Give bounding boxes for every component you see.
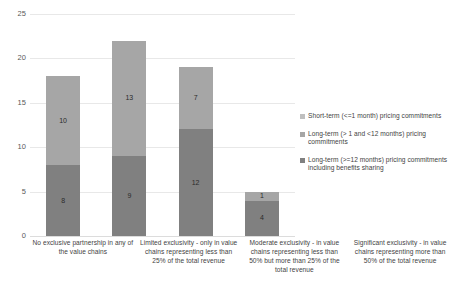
bar-segment-long-term-under-12-months[interactable]: 10 <box>46 76 80 165</box>
bar-segment-value-label: 13 <box>125 94 133 102</box>
bar-column-no-exclusive-partnership[interactable]: 10 8 <box>30 14 96 236</box>
legend-item-long-term-under-12-months[interactable]: Long-term (> 1 and <12 months) pricing c… <box>300 130 458 147</box>
bar-segment-long-term-under-12-months[interactable]: 7 <box>179 67 213 129</box>
stacked-bar-chart: 25 20 15 10 5 0 10 <box>0 0 458 308</box>
bar-column-significant-exclusivity[interactable]: 1 4 <box>229 14 295 236</box>
bar-segment-value-label: 4 <box>260 214 264 222</box>
bar-stack: 13 9 <box>112 41 146 236</box>
bar-segment-value-label: 10 <box>59 117 67 125</box>
bar-segment-value-label: 12 <box>192 179 200 187</box>
x-axis-label-moderate-exclusivity: Moderate exclusivity - in value chains r… <box>242 238 348 306</box>
legend-item-label: Long-term (>=12 months) pricing commitme… <box>308 156 458 173</box>
y-tick-label-20: 20 <box>17 54 26 62</box>
bar-stack: 10 8 <box>46 76 80 236</box>
legend-swatch-icon <box>300 158 305 163</box>
legend-item-long-term-over-12-months[interactable]: Long-term (>=12 months) pricing commitme… <box>300 156 458 173</box>
legend-item-label: Short-term (<=1 month) pricing commitmen… <box>308 112 441 121</box>
legend-item-label: Long-term (> 1 and <12 months) pricing c… <box>308 130 458 147</box>
chart-legend: Short-term (<=1 month) pricing commitmen… <box>300 112 458 182</box>
bar-segment-value-label: 9 <box>127 192 131 200</box>
legend-item-short-term[interactable]: Short-term (<=1 month) pricing commitmen… <box>300 112 458 121</box>
y-tick-label-25: 25 <box>17 10 26 18</box>
bar-segment-long-term-over-12-months[interactable]: 8 <box>46 165 80 236</box>
x-axis-label-no-exclusive-partnership: No exclusive partnership in any of the v… <box>30 238 136 306</box>
bar-segment-long-term-over-12-months[interactable]: 9 <box>112 156 146 236</box>
plot-area: 10 8 13 9 <box>30 14 295 236</box>
bar-segment-value-label: 8 <box>61 197 65 205</box>
y-tick-label-5: 5 <box>22 188 26 196</box>
gridline-0 <box>30 236 295 237</box>
bar-segment-long-term-over-12-months[interactable]: 4 <box>245 201 279 237</box>
y-axis: 25 20 15 10 5 0 <box>0 14 30 236</box>
bar-segment-value-label: 7 <box>194 94 198 102</box>
bar-column-moderate-exclusivity[interactable]: 7 12 <box>163 14 229 236</box>
y-tick-label-10: 10 <box>17 143 26 151</box>
bar-segment-long-term-under-12-months[interactable]: 1 <box>245 192 279 201</box>
bar-stack: 1 4 <box>245 192 279 236</box>
legend-swatch-icon <box>300 114 305 119</box>
bar-stack: 7 12 <box>179 67 213 236</box>
bar-column-limited-exclusivity[interactable]: 13 9 <box>96 14 162 236</box>
bar-segment-long-term-under-12-months[interactable]: 13 <box>112 41 146 156</box>
bar-segment-long-term-over-12-months[interactable]: 12 <box>179 129 213 236</box>
x-axis-label-significant-exclusivity: Significant exclusivity - in value chain… <box>347 238 453 306</box>
plot-area-wrapper: 25 20 15 10 5 0 10 <box>0 14 300 236</box>
y-tick-label-0: 0 <box>22 232 26 240</box>
bar-series-group: 10 8 13 9 <box>30 14 295 236</box>
y-tick-label-15: 15 <box>17 99 26 107</box>
x-axis-label-limited-exclusivity: Limited exclusivity - only in value chai… <box>136 238 242 306</box>
x-axis-category-labels: No exclusive partnership in any of the v… <box>30 238 453 306</box>
legend-swatch-icon <box>300 132 305 137</box>
bar-segment-value-label: 1 <box>260 192 264 200</box>
